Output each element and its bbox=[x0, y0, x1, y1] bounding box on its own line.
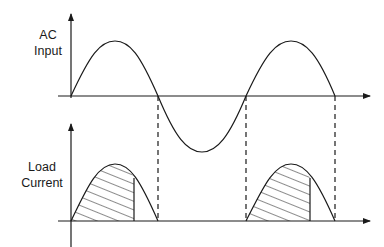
load-current-label-line1: Load bbox=[18, 159, 66, 175]
hatched-area-1 bbox=[71, 164, 134, 221]
load-current-label-line2: Current bbox=[18, 175, 66, 191]
ac-input-panel bbox=[58, 14, 370, 152]
ac-input-label-line1: AC bbox=[30, 27, 66, 43]
load-current-panel bbox=[58, 124, 370, 247]
ac-input-label-line2: Input bbox=[30, 43, 66, 59]
hatched-area-2 bbox=[246, 164, 310, 221]
ac-input-label: AC Input bbox=[30, 27, 66, 59]
load-current-label: Load Current bbox=[18, 159, 66, 191]
